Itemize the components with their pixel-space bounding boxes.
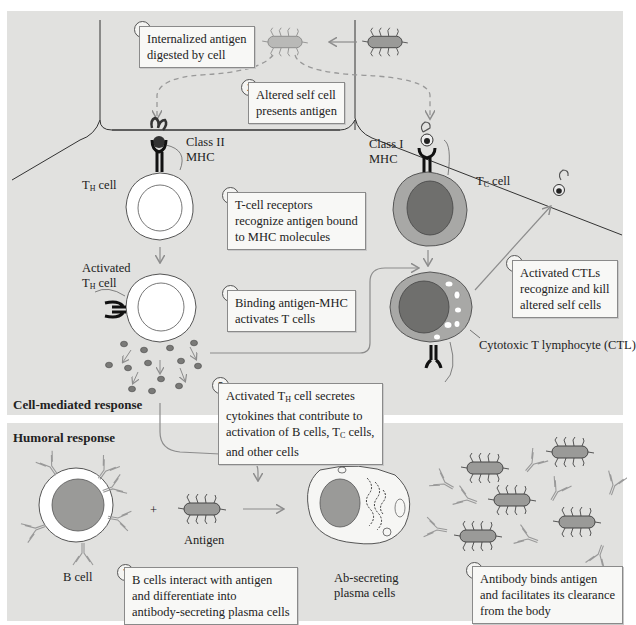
step-7-box: B cells interact with antigen and differ…: [124, 567, 298, 625]
step-5-text-3: activation of B cells, TC cells,: [226, 424, 375, 444]
humoral-heading: Humoral response: [13, 430, 115, 446]
step-4-text-2: activates T cells: [235, 311, 348, 327]
tc-cell-label: TC cell: [476, 174, 510, 192]
step-5-box: Activated TH cell secretes cytokines tha…: [218, 383, 383, 465]
b-cell-icon: [21, 451, 131, 565]
class-i-mhc-icon: [419, 122, 449, 175]
step-3-text-1: T-cell receptors: [235, 197, 358, 213]
cell-mediated-heading: Cell-mediated response: [13, 397, 142, 413]
step-8-text-2: and facilitates its clearance: [480, 587, 615, 603]
step-6-text-1: Activated CTLs: [520, 265, 610, 281]
th-cell-icon: [126, 173, 193, 240]
ctl-icon: [390, 272, 480, 382]
step-8-text-1: Antibody binds antigen: [480, 571, 615, 587]
th-cell-label: TH cell: [82, 178, 117, 196]
step-2-text-2: presents antigen: [256, 103, 337, 119]
class-ii-label: Class II: [186, 135, 225, 150]
step-1-box: Internalized antigen digested by cell: [139, 26, 255, 68]
step-8-box: Antibody binds antigen and facilitates i…: [472, 566, 623, 624]
antigen-label: Antigen: [184, 533, 224, 548]
class-i-mhc-label: MHC: [369, 152, 397, 167]
activated-th-cell-label: TH cell: [82, 276, 117, 294]
step-4-box: Binding antigen-MHC activates T cells: [227, 290, 356, 332]
step-3-text-2: recognize antigen bound: [235, 213, 358, 229]
plasma-label-2: plasma cells: [334, 586, 395, 601]
step-8-text-3: from the body: [480, 603, 615, 619]
step-5-text-2: cytokines that contribute to: [226, 408, 375, 424]
plasma-cell-icon: [308, 466, 410, 544]
step-7-text-2: and differentiate into: [132, 588, 290, 604]
step-2-box: Altered self cell presents antigen: [248, 82, 345, 124]
antigen-internalized-icon: [262, 28, 408, 57]
altered-self-mhc-icon: [554, 170, 569, 196]
tc-cell-icon: [393, 172, 467, 246]
antibody-antigen-complex-icon: [424, 437, 627, 569]
step-6-text-2: recognize and kill: [520, 281, 610, 297]
activated-label: Activated: [82, 261, 131, 276]
class-ii-mhc-label: MHC: [186, 150, 214, 165]
step-4-text-1: Binding antigen-MHC: [235, 295, 348, 311]
step-3-text-3: to MHC molecules: [235, 229, 358, 245]
step-7-text-3: antibody-secreting plasma cells: [132, 604, 290, 620]
step-1-text-2: digested by cell: [147, 47, 247, 63]
cytokines-icon: [106, 340, 202, 394]
step-7-text-1: B cells interact with antigen: [132, 572, 290, 588]
class-ii-mhc-icon: [151, 118, 182, 172]
step-5-text-1: Activated TH cell secretes: [226, 388, 375, 408]
b-cell-label: B cell: [63, 570, 93, 585]
ctl-label: Cytotoxic T lymphocyte (CTL): [479, 338, 636, 353]
step-3-box: T-cell receptors recognize antigen bound…: [227, 192, 366, 250]
step-1-text-1: Internalized antigen: [147, 31, 247, 47]
antigen-icon: [178, 494, 226, 524]
step-2-text-1: Altered self cell: [256, 87, 337, 103]
plasma-label-1: Ab-secreting: [334, 571, 399, 586]
step-5-text-4: and other cells: [226, 444, 375, 460]
class-i-label: Class I: [369, 137, 403, 152]
step-6-text-3: altered self cells: [520, 297, 610, 313]
step-6-box: Activated CTLs recognize and kill altere…: [512, 260, 618, 318]
plus-sign: +: [150, 503, 157, 518]
